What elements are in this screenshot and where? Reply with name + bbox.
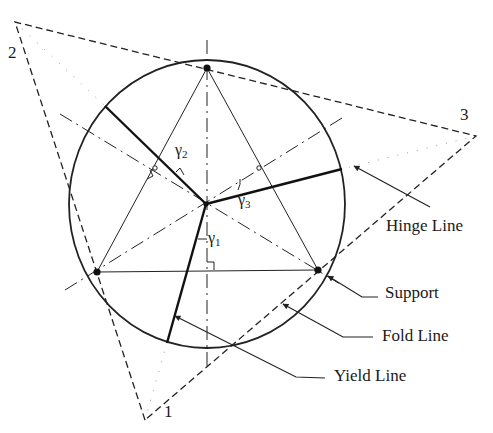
callout-fold-line-leader bbox=[283, 304, 373, 337]
gamma-1-label: γ1 bbox=[208, 230, 221, 248]
callout-hinge-line-label: Hinge Line bbox=[386, 217, 463, 234]
right-angle-mark bbox=[176, 168, 184, 175]
right-angle-marks bbox=[147, 166, 261, 270]
angle-arc-gamma-3 bbox=[238, 179, 240, 190]
callout-yield-line-label: Yield Line bbox=[334, 367, 406, 384]
callout-leaders bbox=[175, 166, 430, 378]
dash-dot-axes bbox=[60, 40, 342, 370]
support-right bbox=[314, 266, 321, 273]
right-angle-mark bbox=[207, 262, 214, 270]
yield-line-2 bbox=[105, 106, 206, 204]
support-top bbox=[203, 64, 210, 71]
gamma-2-label: γ2 bbox=[175, 142, 188, 160]
support-chord bbox=[97, 270, 318, 272]
corner-label-2: 2 bbox=[8, 44, 17, 61]
center-point bbox=[203, 201, 208, 206]
support-left bbox=[93, 268, 100, 275]
chord-midpoint bbox=[153, 166, 157, 170]
gamma-3-label: γ3 bbox=[238, 192, 251, 210]
chord-midpoint bbox=[257, 166, 261, 170]
yield-lines bbox=[105, 106, 342, 343]
corner-label-3: 3 bbox=[460, 106, 469, 123]
corner-label-1: 1 bbox=[164, 403, 173, 420]
callout-hinge-line-leader bbox=[354, 166, 430, 207]
callout-support-leader bbox=[328, 276, 378, 297]
callout-support-label: Support bbox=[385, 284, 439, 301]
callout-fold-line-label: Fold Line bbox=[382, 327, 449, 344]
yield-line-3 bbox=[206, 169, 342, 204]
